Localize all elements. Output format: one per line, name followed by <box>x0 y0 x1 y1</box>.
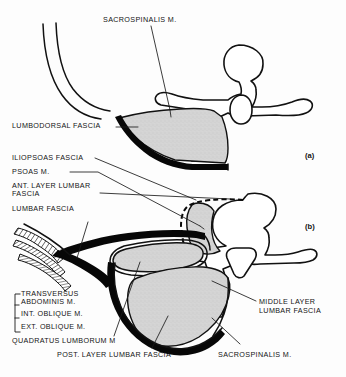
vertebral-foramen-a <box>230 95 252 124</box>
label-lumbodorsal-fascia: LUMBODORSAL FASCIA <box>12 122 101 131</box>
label-iliopsoas-fascia: ILIOPSOAS FASCIA <box>12 154 84 163</box>
label-post-layer-lumbar-fascia: POST. LAYER LUMBAR FASCIA <box>57 351 171 360</box>
label-lumbar-fascia: LUMBAR FASCIA <box>12 205 74 214</box>
leader-ant-layer-lumbar-fascia <box>100 193 230 199</box>
panel-a-drawing <box>43 23 312 170</box>
abdominal-muscles-bracket <box>15 294 20 332</box>
label-sacrospinalis-a: SACROSPINALIS M. <box>103 16 177 25</box>
label-sacrospinalis-b: SACROSPINALIS M. <box>218 351 292 360</box>
label-int-oblique: INT. OBLIQUE M. <box>21 310 83 319</box>
label-middle-layer-lumbar-fascia-line2: LUMBAR FASCIA <box>259 307 321 316</box>
label-psoas: PSOAS M. <box>12 168 50 177</box>
label-ext-oblique: EXT. OBLIQUE M. <box>21 323 85 332</box>
label-transversus-abdominis-line2: ABDOMINIS M. <box>21 298 76 307</box>
anatomical-figure: SACROSPINALIS M. LUMBODORSAL FASCIA (a) … <box>0 0 346 377</box>
label-quadratus-lumborum: QUADRATUS LUMBORUM M <box>12 337 116 346</box>
label-ant-layer-lumbar-fascia-line2: FASCIA <box>12 190 40 199</box>
leader-lumbar-fascia <box>77 222 88 258</box>
panel-marker-a: (a) <box>305 151 314 160</box>
panel-marker-b: (b) <box>305 222 315 231</box>
vertebral-foramen-b <box>226 248 256 278</box>
